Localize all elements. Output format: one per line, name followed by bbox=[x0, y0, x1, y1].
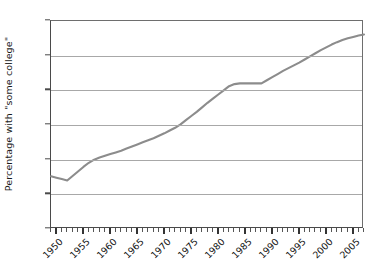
x-tick-label: 1975 bbox=[170, 236, 200, 266]
x-tick-minor bbox=[358, 228, 359, 232]
x-tick-minor bbox=[239, 228, 240, 232]
x-tick-major bbox=[298, 228, 299, 234]
x-tick-minor bbox=[347, 228, 348, 232]
x-tick-minor bbox=[158, 228, 159, 232]
x-tick-major bbox=[352, 228, 353, 234]
x-tick-minor bbox=[104, 228, 105, 232]
x-tick-minor bbox=[287, 228, 288, 232]
gridline-40 bbox=[51, 90, 362, 91]
x-tick-minor bbox=[126, 228, 127, 232]
chart-container: Percentage with "some college" 0%10%20%3… bbox=[0, 0, 379, 269]
x-tick-minor bbox=[61, 228, 62, 232]
x-tick-minor bbox=[250, 228, 251, 232]
x-tick-minor bbox=[180, 228, 181, 232]
x-tick-minor bbox=[153, 228, 154, 232]
y-tick-mark bbox=[45, 193, 50, 194]
x-tick-label: 2000 bbox=[305, 236, 335, 266]
x-tick-label: 1955 bbox=[62, 236, 92, 266]
x-tick-label: 2005 bbox=[332, 236, 362, 266]
x-tick-major bbox=[82, 228, 83, 234]
x-tick-minor bbox=[207, 228, 208, 232]
gridline-30 bbox=[51, 125, 362, 126]
y-tick-mark bbox=[45, 54, 50, 55]
x-tick-major bbox=[136, 228, 137, 234]
plot-area bbox=[50, 20, 363, 228]
y-tick-mark bbox=[45, 19, 50, 20]
x-tick-minor bbox=[341, 228, 342, 232]
x-tick-minor bbox=[363, 228, 364, 232]
x-tick-label: 1960 bbox=[89, 236, 119, 266]
x-tick-minor bbox=[50, 228, 51, 232]
x-tick-minor bbox=[260, 228, 261, 232]
x-tick-label: 1965 bbox=[116, 236, 146, 266]
x-tick-minor bbox=[223, 228, 224, 232]
x-tick-minor bbox=[120, 228, 121, 232]
gridline-10 bbox=[51, 194, 362, 195]
x-tick-minor bbox=[77, 228, 78, 232]
x-tick-minor bbox=[93, 228, 94, 232]
x-tick-minor bbox=[212, 228, 213, 232]
x-tick-minor bbox=[66, 228, 67, 232]
x-tick-label: 1950 bbox=[35, 236, 65, 266]
x-tick-minor bbox=[88, 228, 89, 232]
x-tick-major bbox=[271, 228, 272, 234]
x-tick-minor bbox=[115, 228, 116, 232]
x-tick-minor bbox=[142, 228, 143, 232]
x-tick-major bbox=[109, 228, 110, 234]
x-tick-major bbox=[217, 228, 218, 234]
x-tick-major bbox=[55, 228, 56, 234]
x-tick-label: 1995 bbox=[278, 236, 308, 266]
x-tick-major bbox=[244, 228, 245, 234]
x-tick-minor bbox=[277, 228, 278, 232]
x-tick-minor bbox=[320, 228, 321, 232]
y-tick-mark bbox=[45, 158, 50, 159]
x-tick-label: 1980 bbox=[197, 236, 227, 266]
y-tick-mark bbox=[45, 123, 50, 124]
x-tick-minor bbox=[266, 228, 267, 232]
x-tick-minor bbox=[147, 228, 148, 232]
x-tick-label: 1990 bbox=[251, 236, 281, 266]
x-tick-label: 1970 bbox=[143, 236, 173, 266]
x-tick-label: 1985 bbox=[224, 236, 254, 266]
x-tick-minor bbox=[309, 228, 310, 232]
x-tick-minor bbox=[185, 228, 186, 232]
x-tick-minor bbox=[304, 228, 305, 232]
x-tick-major bbox=[325, 228, 326, 234]
x-tick-minor bbox=[282, 228, 283, 232]
y-tick-mark bbox=[45, 89, 50, 90]
x-tick-minor bbox=[293, 228, 294, 232]
gridline-50 bbox=[51, 56, 362, 57]
x-tick-minor bbox=[336, 228, 337, 232]
x-tick-minor bbox=[233, 228, 234, 232]
x-tick-minor bbox=[196, 228, 197, 232]
x-tick-minor bbox=[99, 228, 100, 232]
x-tick-minor bbox=[201, 228, 202, 232]
x-tick-minor bbox=[131, 228, 132, 232]
x-tick-minor bbox=[174, 228, 175, 232]
y-axis-title: Percentage with "some college" bbox=[0, 0, 16, 228]
x-tick-major bbox=[163, 228, 164, 234]
gridline-20 bbox=[51, 160, 362, 161]
x-tick-minor bbox=[255, 228, 256, 232]
x-tick-minor bbox=[314, 228, 315, 232]
x-tick-minor bbox=[228, 228, 229, 232]
x-tick-minor bbox=[72, 228, 73, 232]
x-tick-minor bbox=[169, 228, 170, 232]
x-tick-minor bbox=[331, 228, 332, 232]
x-tick-major bbox=[190, 228, 191, 234]
